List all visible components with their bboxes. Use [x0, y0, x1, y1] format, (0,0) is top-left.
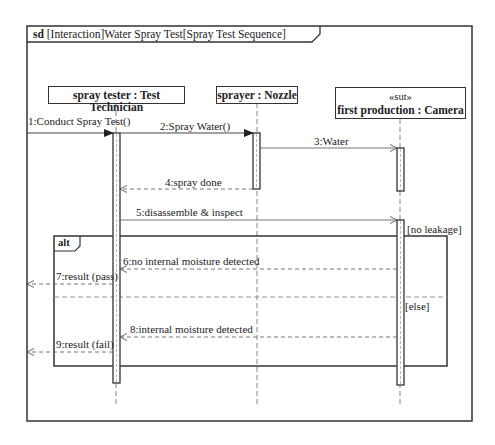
message-3-label: 3:Water: [314, 136, 349, 147]
message-9-label: 9:result (fail): [56, 339, 114, 350]
guard-no-leakage: [no leakage]: [407, 224, 462, 235]
lifeline-camera-head[interactable]: «sut» first production : Camera: [335, 87, 466, 119]
message-2-label: 2:Spray Water(): [160, 121, 230, 132]
lifeline-sprayer-name: sprayer : Nozzle: [217, 89, 297, 101]
message-4-label: 4:spray done: [165, 177, 222, 188]
lifeline-camera-stereotype: «sut»: [336, 91, 465, 102]
frame-title: sd [Interaction]Water Spray Test[Spray T…: [33, 29, 286, 41]
guard-else: [else]: [405, 301, 429, 312]
message-7-label: 7:result (pass): [56, 271, 118, 282]
lifeline-tester-head[interactable]: spray tester : Test Technician: [48, 86, 185, 104]
frame-name: [Interaction]Water Spray Test[Spray Test…: [44, 28, 286, 40]
frame-keyword: sd: [33, 28, 44, 40]
lifeline-camera-name: first production : Camera: [336, 104, 465, 116]
message-1-label: 1:Conduct Spray Test(): [28, 116, 130, 127]
lifeline-sprayer-head[interactable]: sprayer : Nozzle: [216, 86, 298, 104]
message-5-label: 5:disassemble & inspect: [136, 207, 243, 218]
alt-operator-label: alt: [58, 238, 70, 249]
message-6-label: 6:no internal moisture detected: [123, 256, 260, 267]
message-8-label: 8:internal moisture detected: [130, 324, 253, 335]
